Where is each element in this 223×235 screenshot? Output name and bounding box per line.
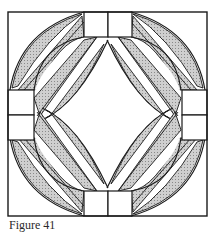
bottom-square-right [108, 191, 132, 216]
top-square-right [108, 12, 132, 37]
top-square-left [84, 12, 108, 37]
bottom-square-left [84, 191, 108, 216]
figure-caption: Figure 41 [9, 218, 55, 233]
right-square-bottom [182, 115, 207, 140]
left-square-bottom [8, 115, 34, 140]
quilt-block-figure [0, 0, 223, 218]
right-square-top [182, 90, 207, 115]
left-square-top [8, 90, 34, 115]
